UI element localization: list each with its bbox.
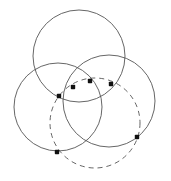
right-circle bbox=[63, 55, 155, 147]
point-5 bbox=[135, 135, 139, 139]
circles-group bbox=[14, 10, 155, 168]
point-3 bbox=[88, 79, 92, 83]
top-circle bbox=[33, 10, 125, 102]
left-circle bbox=[14, 63, 102, 151]
point-6 bbox=[55, 150, 59, 154]
figure-container bbox=[0, 0, 171, 181]
geometry-diagram bbox=[0, 0, 171, 181]
point-2 bbox=[71, 85, 75, 89]
point-1 bbox=[57, 94, 61, 98]
point-4 bbox=[109, 82, 113, 86]
dashed-circle bbox=[50, 78, 140, 168]
points-group bbox=[55, 79, 139, 154]
